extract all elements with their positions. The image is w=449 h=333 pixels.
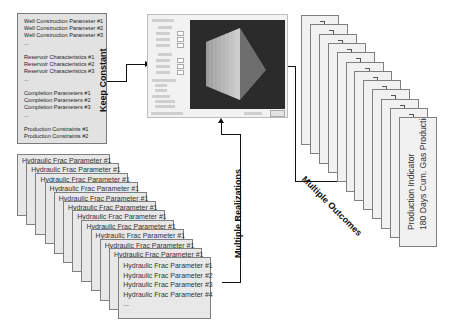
panel-checkbox[interactable]	[155, 105, 175, 108]
connector-segment	[221, 123, 222, 135]
connector-segment	[221, 134, 241, 135]
panel-radio[interactable]	[155, 89, 167, 92]
realization-card: Hydraulic Frac Parameter #1Hydraulic Fra…	[118, 257, 211, 319]
realization-parameter: ...	[123, 299, 129, 309]
parameter-line: Production Constraints #2	[24, 133, 88, 140]
status-label	[244, 112, 262, 115]
parameter-line: Well Construction Parameter #3	[24, 32, 103, 39]
realization-parameter: Hydraulic Frac Parameter #2	[123, 271, 212, 281]
parameter-line: Completion Parameters #1	[24, 90, 91, 97]
panel-input[interactable]	[177, 58, 184, 63]
realization-parameter: Hydraulic Frac Parameter #1	[123, 261, 212, 271]
connector-segment	[126, 64, 127, 82]
panel-field	[156, 32, 170, 35]
connector-segment	[295, 66, 296, 182]
parameter-line: ...	[24, 40, 29, 47]
parameter-line: ...	[24, 76, 29, 83]
panel-input[interactable]	[177, 31, 184, 36]
panel-heading	[158, 53, 172, 56]
outcome-metric-label: 180 Days Cum. Gas Production	[418, 117, 428, 230]
simulator-window	[147, 14, 288, 118]
status-label	[151, 112, 183, 115]
parameter-line: Reservoir Characteristics #2	[24, 61, 94, 68]
panel-field	[156, 71, 170, 74]
connector-realizations	[222, 282, 240, 283]
parameter-line: Production Constraints #1	[24, 126, 88, 133]
simulator-parameter-panel	[150, 17, 188, 107]
panel-field	[156, 65, 170, 68]
panel-input[interactable]	[177, 70, 184, 75]
panel-input[interactable]	[177, 64, 184, 69]
fracture-3d-render	[190, 20, 285, 109]
panel-field	[156, 44, 170, 47]
panel-heading	[152, 95, 170, 98]
panel-field	[156, 38, 170, 41]
panel-heading	[152, 19, 174, 22]
connector-keep-constant	[107, 81, 126, 82]
parameter-line: Reservoir Characteristics #3	[24, 68, 94, 75]
panel-input[interactable]	[177, 43, 184, 48]
realization-parameter: Hydraulic Frac Parameter #4	[123, 290, 212, 300]
arrow-up-icon	[218, 118, 224, 123]
parameter-line: Well Construction Parameter #2	[24, 25, 103, 32]
panel-radio[interactable]	[155, 84, 167, 87]
parameter-line: Well Construction Parameter #1	[24, 18, 103, 25]
panel-checkbox[interactable]	[155, 100, 175, 103]
keep-constant-box: Well Construction Parameter #1Well Const…	[17, 13, 107, 144]
panel-heading	[158, 26, 172, 29]
panel-field	[156, 59, 170, 62]
run-button[interactable]	[270, 110, 285, 117]
realization-parameter: Hydraulic Frac Parameter #3	[123, 280, 212, 290]
fracture-3d-viewport[interactable]	[190, 20, 285, 109]
connector-segment	[126, 64, 146, 65]
parameter-line: Completion Parameters #3	[24, 104, 91, 111]
parameter-line: Completion Parameters #2	[24, 97, 91, 104]
multiple-realizations-label: Multiple Realizations	[233, 169, 243, 258]
panel-heading	[152, 79, 176, 82]
outcome-card: Production Indicator180 Days Cum. Gas Pr…	[399, 117, 437, 247]
outcome-indicator-label: Production Indicator	[406, 154, 416, 230]
parameter-line: ...	[24, 112, 29, 119]
panel-input[interactable]	[177, 37, 184, 42]
parameter-line: Reservoir Characteristics #1	[24, 54, 94, 61]
